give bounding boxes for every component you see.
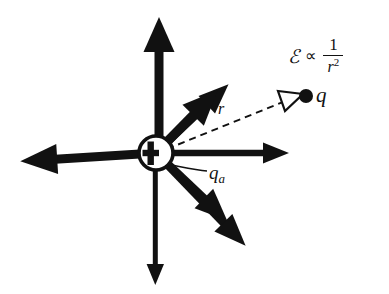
arrow-down [147, 153, 164, 285]
formula-fraction: 1 r2 [323, 36, 343, 77]
test-charge-dot [299, 89, 313, 103]
field-proportionality-formula: ℰ ∝ 1 r2 [288, 36, 343, 77]
label-test-charge-q: q [316, 85, 327, 106]
formula-numerator: 1 [326, 36, 341, 55]
label-distance-r: r [218, 101, 224, 117]
source-charge-symbol [139, 136, 173, 170]
arrow-right [156, 143, 289, 164]
qa-subscript: a [219, 171, 226, 186]
formula-denominator-exponent: 2 [334, 56, 340, 68]
electric-field-figure: q r qa ℰ ∝ 1 r2 [0, 0, 389, 294]
formula-field-symbol: ℰ [288, 47, 300, 66]
label-source-charge-qa: qa [209, 163, 225, 185]
formula-proportional-sign: ∝ [305, 48, 316, 64]
arrow-left [19, 138, 157, 176]
formula-denominator: r2 [328, 56, 340, 76]
qa-base: q [209, 162, 219, 183]
hollow-arrowhead-icon [278, 91, 303, 111]
